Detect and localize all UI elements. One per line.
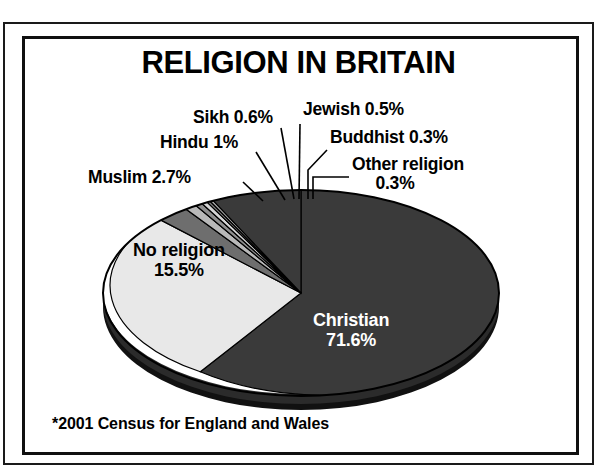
slice-label-no-religion: No religion 15.5% xyxy=(133,240,225,280)
callout-label-other-religion: Other religion 0.3% xyxy=(352,155,464,193)
callout-other-name: Other religion xyxy=(352,154,464,174)
slice-label-christian-name: Christian xyxy=(313,310,389,330)
slice-label-christian: Christian 71.6% xyxy=(313,310,389,350)
callout-label-muslim: Muslim 2.7% xyxy=(88,168,191,187)
slice-label-no-religion-name: No religion xyxy=(133,240,225,260)
slice-label-christian-percent: 71.6% xyxy=(326,330,376,350)
callout-label-hindu: Hindu 1% xyxy=(160,133,238,152)
leader-line-jewish xyxy=(299,124,300,199)
chart-footnote: *2001 Census for England and Wales xyxy=(52,415,329,433)
callout-label-buddhist: Buddhist 0.3% xyxy=(330,128,448,147)
callout-label-jewish: Jewish 0.5% xyxy=(303,100,404,119)
slice-label-no-religion-percent: 15.5% xyxy=(154,260,204,280)
chart-page: RELIGION IN BRITAIN xyxy=(0,0,597,467)
leader-line-sikh xyxy=(281,128,294,199)
pie-chart-graphic xyxy=(0,0,597,467)
callout-other-percent: 0.3% xyxy=(352,174,464,193)
callout-label-sikh: Sikh 0.6% xyxy=(193,108,273,127)
